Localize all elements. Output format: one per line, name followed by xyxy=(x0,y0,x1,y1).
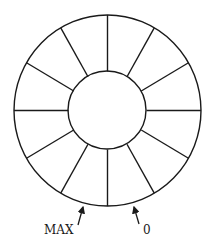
segment-divider xyxy=(127,144,154,193)
zero-arrow xyxy=(134,207,139,224)
segment-divider xyxy=(127,28,154,77)
segment-divider xyxy=(61,144,88,193)
segment-divider xyxy=(61,28,88,77)
segment-divider xyxy=(141,130,188,158)
zero-label: 0 xyxy=(143,223,151,237)
max-label: MAX xyxy=(44,223,74,237)
segment-divider xyxy=(27,63,74,91)
segment-dividers xyxy=(14,15,201,206)
max-arrow xyxy=(78,207,83,225)
segment-divider xyxy=(27,130,74,158)
circular-buffer-diagram: MAX 0 xyxy=(0,0,211,246)
segment-divider xyxy=(141,63,188,91)
inner-ring xyxy=(68,71,146,149)
